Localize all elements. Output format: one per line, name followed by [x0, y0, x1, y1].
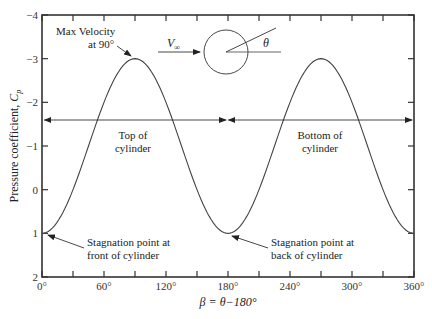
arrowhead-left-icon — [44, 117, 51, 123]
cylinder-inset: V∞ θ — [158, 28, 281, 74]
y-tick-label: 1 — [33, 227, 39, 239]
bottom-label-line2: cylinder — [302, 142, 338, 154]
back-stagnation-line1: Stagnation point at — [271, 236, 354, 248]
x-tick-label: 360° — [404, 280, 425, 292]
top-label-line1: Top of — [119, 129, 148, 141]
y-tick-label: −1 — [26, 140, 38, 152]
arrowhead-left-icon — [228, 117, 235, 123]
cp-curve — [42, 59, 414, 234]
y-tick-label: −3 — [26, 53, 38, 65]
top-label-line2: cylinder — [115, 142, 151, 154]
x-tick-label: 120° — [156, 280, 177, 292]
back-stagnation-line2: back of cylinder — [271, 249, 343, 261]
max-velocity-arrow — [117, 46, 131, 56]
y-tick-label: −2 — [26, 96, 38, 108]
x-axis-title: β = θ−180° — [199, 295, 257, 309]
y-axis-title: Pressure coefficient, Cp — [7, 90, 23, 203]
front-stagnation-line2: front of cylinder — [87, 249, 159, 261]
front-stagnation-arrow — [48, 235, 84, 248]
x-tick-label: 300° — [342, 280, 363, 292]
bottom-label-line1: Bottom of — [298, 129, 343, 141]
max-velocity-line1: Max Velocity — [56, 25, 116, 37]
x-tick-label: 240° — [280, 280, 301, 292]
theta-label: θ — [263, 36, 269, 50]
cp-chart: 0°60°120°180°240°300°360°−4−3−2−1012 Top… — [0, 0, 432, 319]
x-tick-label: 0° — [37, 280, 47, 292]
v-infinity-label: V∞ — [167, 36, 180, 52]
y-tick-label: 2 — [33, 271, 39, 283]
x-tick-label: 180° — [218, 280, 239, 292]
y-tick-label: 0 — [33, 184, 39, 196]
y-tick-label: −4 — [26, 9, 38, 21]
back-stagnation-arrow — [232, 236, 268, 248]
front-stagnation-line1: Stagnation point at — [87, 236, 170, 248]
axis-tick-labels: 0°60°120°180°240°300°360°−4−3−2−1012 — [26, 9, 424, 292]
max-velocity-line2: at 90° — [88, 38, 114, 50]
x-tick-label: 60° — [96, 280, 111, 292]
